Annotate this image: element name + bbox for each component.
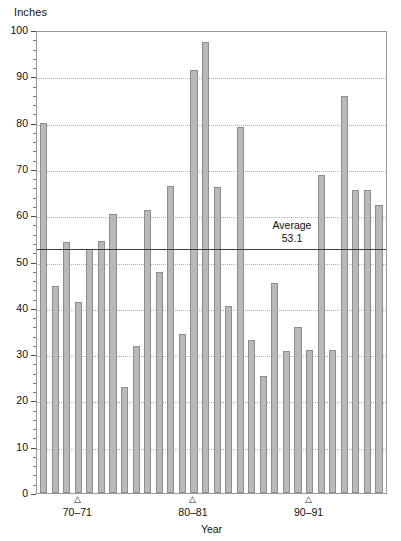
bar [225, 306, 232, 493]
y-tick-label: 90 [16, 71, 28, 82]
bar [202, 42, 209, 493]
bar [248, 340, 255, 493]
y-tick-label: 0 [22, 488, 28, 499]
average-annotation-label: Average [237, 219, 347, 232]
plot-area: Average 53.1 [36, 31, 387, 494]
y-tick-label: 50 [16, 257, 28, 268]
bar [271, 283, 278, 493]
bar [364, 190, 371, 493]
bar [283, 351, 290, 493]
y-tick-label: 10 [16, 442, 28, 453]
y-tick-label: 60 [16, 210, 28, 221]
bar [214, 187, 221, 493]
y-tick-label: 80 [16, 118, 28, 129]
bar [306, 350, 313, 493]
bar [260, 376, 267, 493]
bar [167, 186, 174, 493]
x-tick-label: 80–81 [178, 506, 207, 519]
x-axis-title: Year [36, 523, 387, 536]
bar [133, 346, 140, 493]
bar [156, 272, 163, 493]
y-axis: 0102030405060708090100 [0, 31, 36, 494]
x-axis: Year △70–71△80–81△90–91 [36, 494, 387, 541]
bar [75, 302, 82, 493]
bars-layer [37, 32, 386, 493]
y-tick-label: 30 [16, 349, 28, 360]
bar [40, 123, 47, 493]
x-tick-label: 70–71 [63, 506, 92, 519]
bar [98, 241, 105, 493]
bar [341, 96, 348, 493]
bar [352, 190, 359, 493]
bar [86, 249, 93, 493]
triangle-marker-icon: △ [63, 494, 92, 505]
bar-chart: Inches 0102030405060708090100 Average 53… [0, 0, 401, 541]
y-tick-label: 100 [10, 25, 28, 36]
bar [63, 242, 70, 493]
bar [109, 214, 116, 493]
y-axis-unit-label: Inches [14, 6, 47, 19]
bar [121, 387, 128, 493]
bar [144, 210, 151, 493]
average-annotation: Average 53.1 [237, 219, 347, 245]
x-tick-marker: △70–71 [63, 494, 92, 519]
y-tick-label: 40 [16, 303, 28, 314]
average-annotation-value: 53.1 [237, 232, 347, 245]
y-tick-label: 20 [16, 395, 28, 406]
bar [294, 327, 301, 493]
x-tick-label: 90–91 [294, 506, 323, 519]
bar [52, 286, 59, 493]
bar [375, 205, 382, 493]
y-tick-label: 70 [16, 164, 28, 175]
triangle-marker-icon: △ [294, 494, 323, 505]
average-line [37, 249, 386, 250]
bar [179, 334, 186, 493]
x-tick-marker: △80–81 [178, 494, 207, 519]
bar [190, 70, 197, 493]
bar [329, 350, 336, 493]
x-tick-marker: △90–91 [294, 494, 323, 519]
triangle-marker-icon: △ [178, 494, 207, 505]
bar [237, 127, 244, 493]
